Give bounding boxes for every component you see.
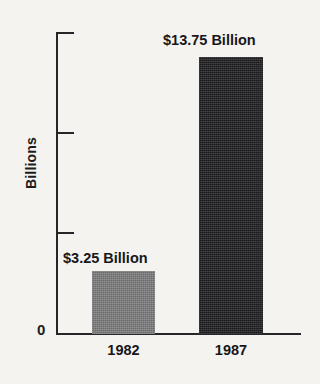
y-axis-tick-top [58, 32, 74, 34]
bar-1987 [199, 57, 263, 334]
category-label-1987: 1987 [199, 343, 263, 358]
category-label-1982: 1982 [92, 343, 155, 358]
y-axis-title: Billions [23, 123, 39, 203]
y-axis-tick-lower [58, 232, 74, 234]
bar-value-label-1987: $13.75 Billion [163, 33, 256, 48]
y-axis-tick-middle [58, 132, 74, 134]
bar-chart: 0 Billions $3.25 Billion 1982 $13.75 Bil… [0, 0, 320, 384]
bar-1982 [92, 271, 155, 334]
y-axis-origin-label: 0 [37, 322, 45, 337]
bar-value-label-1982: $3.25 Billion [63, 251, 148, 266]
y-axis-line [56, 32, 58, 335]
